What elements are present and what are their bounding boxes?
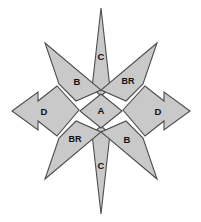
label-spike-lower-left-br: BR [69, 134, 82, 144]
star-diagram-svg: A C C B BR BR B D D [0, 0, 201, 222]
star-diagram-figure: A C C B BR BR B D D [0, 0, 201, 222]
label-spike-top-c: C [98, 51, 105, 62]
label-arrow-right-d: D [155, 106, 162, 117]
label-spike-upper-right-br: BR [122, 76, 135, 86]
label-spike-upper-left-b: B [74, 76, 81, 87]
label-spike-lower-right-b: B [124, 134, 131, 145]
label-spike-bottom-c: C [98, 160, 105, 171]
label-center-a: A [98, 105, 105, 116]
label-arrow-left-d: D [41, 106, 48, 117]
